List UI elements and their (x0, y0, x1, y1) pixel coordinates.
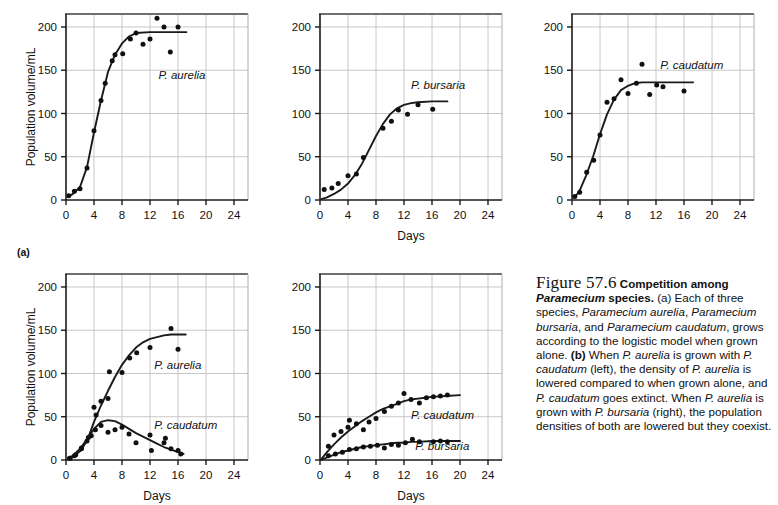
data-point (120, 51, 125, 56)
y-tick-label: 100 (544, 108, 563, 120)
x-tick-label: 12 (398, 209, 411, 221)
x-tick-label: 4 (91, 209, 98, 221)
y-tick-label: 200 (292, 281, 311, 293)
data-point (106, 430, 111, 435)
data-point (148, 432, 153, 437)
y-tick-label: 100 (292, 368, 311, 380)
data-point (85, 438, 90, 443)
data-point (346, 173, 351, 178)
x-tick-label: 16 (426, 209, 439, 221)
y-tick-label: 50 (44, 151, 57, 163)
x-tick-label: 8 (373, 209, 379, 221)
data-point (396, 108, 401, 113)
data-point (336, 181, 341, 186)
y-tick-label: 150 (292, 324, 311, 336)
data-point (340, 450, 345, 455)
series-label: P. bursaria (415, 440, 469, 452)
data-point (99, 98, 104, 103)
x-tick-label: 16 (426, 469, 439, 481)
data-point (94, 413, 99, 418)
chart-panel-aurelia-alone: 05010015020004812162024Population volume… (22, 2, 276, 246)
data-point (107, 369, 112, 374)
data-point (654, 82, 659, 87)
data-point (367, 419, 372, 424)
x-tick-label: 8 (119, 469, 125, 481)
x-tick-label: 4 (345, 469, 352, 481)
chart-aurelia-alone: 05010015020004812162024Population volume… (22, 2, 276, 246)
chart-panel-caudatum-alone: 05010015020004812162024P. caudatum (528, 2, 778, 246)
data-point (72, 189, 77, 194)
x-tick-label: 24 (734, 209, 747, 221)
x-tick-label: 20 (200, 209, 213, 221)
x-tick-label: 0 (317, 209, 323, 221)
x-tick-label: 12 (144, 209, 157, 221)
data-point (361, 155, 366, 160)
data-point (92, 128, 97, 133)
y-tick-label: 0 (305, 454, 311, 466)
data-point (438, 393, 443, 398)
figure-caption: Figure 57.6 Competition among Paramecium… (536, 276, 774, 433)
data-point (148, 345, 153, 350)
data-point (106, 396, 111, 401)
data-point (141, 42, 146, 47)
chart-panel-caudatum-with-bursaria: 05010015020004812162024DaysP. caudatumP.… (276, 262, 530, 505)
data-point (381, 126, 386, 131)
x-tick-label: 8 (373, 469, 379, 481)
y-tick-label: 100 (38, 108, 57, 120)
data-point (120, 425, 125, 430)
chart-bursaria-alone: 05010015020004812162024DaysP. bursaria (276, 2, 530, 246)
data-point (73, 452, 78, 457)
data-point (626, 91, 631, 96)
fit-curve-p-caudatum (574, 82, 693, 197)
data-point (375, 443, 380, 448)
data-point (99, 399, 104, 404)
x-axis-title: Days (143, 489, 170, 503)
data-point (382, 409, 387, 414)
y-tick-label: 200 (38, 281, 57, 293)
data-point (176, 347, 181, 352)
chart-panel-aurelia-with-caudatum: 05010015020004812162024DaysPopulation vo… (22, 262, 276, 505)
data-point (162, 24, 167, 29)
x-tick-label: 4 (91, 469, 98, 481)
data-point (405, 112, 410, 117)
data-point (430, 107, 435, 112)
data-point (134, 31, 139, 36)
data-point (368, 444, 373, 449)
data-point (403, 440, 408, 445)
series-label: P. aurelia (158, 69, 205, 81)
data-point (79, 445, 84, 450)
x-tick-label: 20 (454, 209, 467, 221)
data-point (682, 89, 687, 94)
data-point (332, 432, 337, 437)
data-point (354, 446, 359, 451)
data-point (431, 394, 436, 399)
data-point (120, 370, 125, 375)
x-tick-label: 8 (119, 209, 125, 221)
chart-panel-bursaria-alone: 05010015020004812162024DaysP. bursaria (276, 2, 530, 246)
data-point (68, 456, 73, 461)
data-point (113, 427, 118, 432)
data-point (577, 190, 582, 195)
series-label: P. caudatum (660, 59, 724, 71)
data-point (445, 393, 450, 398)
data-point (155, 16, 160, 21)
data-point (612, 96, 617, 101)
y-axis-title: Population volume/mL (24, 47, 38, 166)
data-point (347, 447, 352, 452)
y-tick-label: 0 (51, 454, 57, 466)
data-point (163, 436, 168, 441)
chart-aurelia-with-caudatum: 05010015020004812162024DaysPopulation vo… (22, 262, 276, 505)
data-point (149, 448, 154, 453)
data-point (176, 24, 181, 29)
data-point (661, 84, 666, 89)
data-point (584, 170, 589, 175)
data-point (346, 425, 351, 430)
x-tick-label: 24 (482, 469, 495, 481)
x-tick-label: 0 (63, 469, 69, 481)
data-point (134, 350, 139, 355)
y-tick-label: 0 (305, 194, 311, 206)
data-point (354, 172, 359, 177)
data-point (424, 395, 429, 400)
data-point (127, 432, 132, 437)
y-tick-label: 150 (38, 324, 57, 336)
